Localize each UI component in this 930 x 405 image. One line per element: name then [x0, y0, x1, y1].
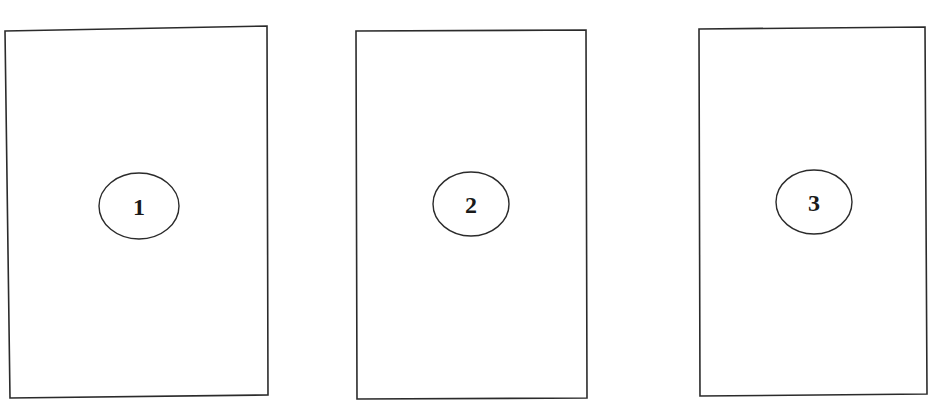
panel-3: 3 — [699, 27, 927, 396]
panel-1: 1 — [5, 26, 268, 398]
panel-number: 3 — [808, 190, 820, 216]
diagram-canvas: 1 2 3 — [0, 0, 930, 405]
panel-number: 1 — [133, 194, 145, 220]
panel-number: 2 — [465, 192, 477, 218]
panel-2: 2 — [356, 30, 587, 399]
